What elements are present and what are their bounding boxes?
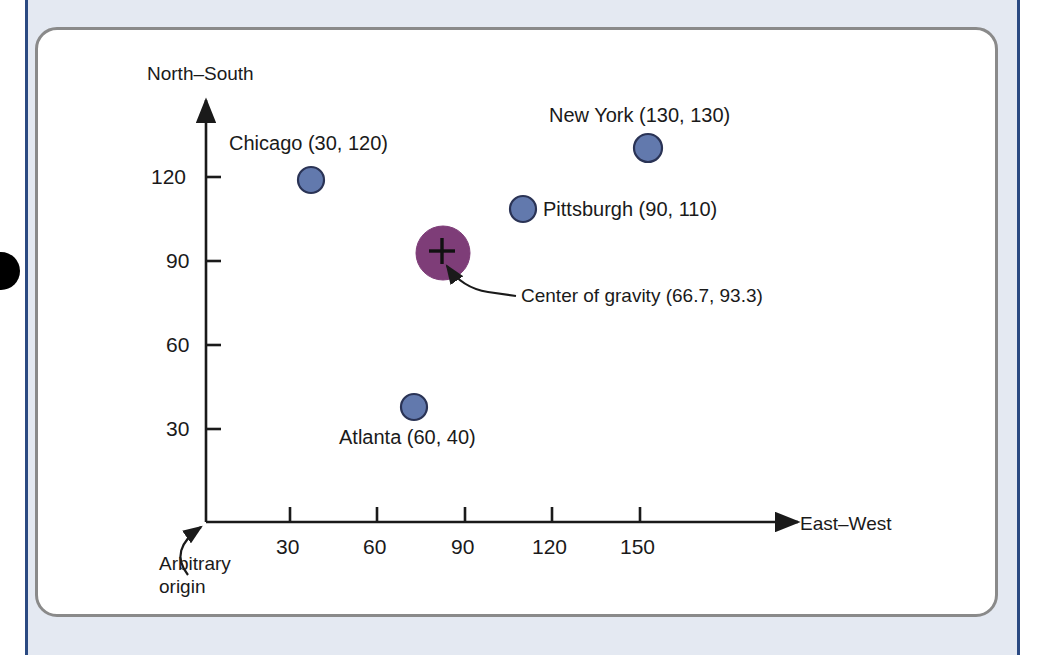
y-axis-title: North–South [147, 63, 254, 85]
marker-atlanta [401, 394, 427, 420]
marker-chicago [298, 167, 324, 193]
x-tick-label-90: 90 [451, 535, 474, 559]
center-of-gravity-annotation: Center of gravity (66.7, 93.3) [521, 285, 763, 307]
page-edge-bullet-dot [0, 252, 20, 290]
left-margin-rule [25, 0, 28, 655]
point-label-chicago: Chicago (30, 120) [229, 132, 388, 155]
marker-new-york [634, 134, 662, 162]
data-markers [298, 134, 662, 420]
x-tick-label-120: 120 [532, 535, 567, 559]
x-tick-label-30: 30 [276, 535, 299, 559]
x-tick-label-60: 60 [363, 535, 386, 559]
marker-pittsburgh [510, 196, 536, 222]
figure-page: North–South East–West 120 90 60 30 30 60… [0, 0, 1041, 655]
y-tick-label-30: 30 [166, 417, 189, 441]
y-tick-label-90: 90 [166, 249, 189, 273]
x-tick-label-150: 150 [620, 535, 655, 559]
y-tick-label-60: 60 [166, 333, 189, 357]
x-axis-title: East–West [800, 513, 892, 535]
x-axis [206, 507, 798, 522]
figure-frame: North–South East–West 120 90 60 30 30 60… [35, 27, 998, 617]
y-tick-label-120: 120 [151, 165, 186, 189]
point-label-pittsburgh: Pittsburgh (90, 110) [543, 198, 717, 221]
point-label-atlanta: Atlanta (60, 40) [339, 426, 476, 449]
right-margin-rule [1017, 0, 1020, 655]
arbitrary-origin-annotation: Arbitrary origin [159, 552, 231, 598]
y-axis [206, 100, 221, 522]
point-label-new-york: New York (130, 130) [549, 104, 730, 127]
